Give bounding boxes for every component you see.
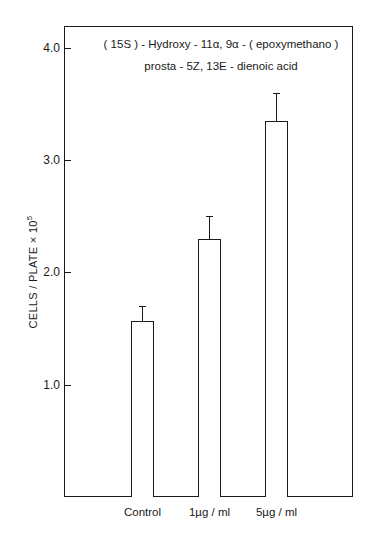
y-tick-label: 1.0	[20, 379, 60, 391]
y-tick	[64, 385, 71, 386]
y-tick	[64, 272, 71, 273]
y-tick	[64, 48, 71, 49]
error-bar	[142, 306, 143, 321]
error-bar-cap	[273, 93, 280, 94]
error-bar	[209, 216, 210, 238]
bar	[198, 239, 221, 497]
y-tick	[64, 160, 71, 161]
bar	[265, 121, 288, 497]
y-tick-label: 3.0	[20, 154, 60, 166]
chart-title-line-1: ( 15S ) - Hydroxy - 11α, 9α - ( epoxymet…	[96, 37, 346, 51]
x-tick-label: 1µg / ml	[189, 506, 230, 518]
error-bar-cap	[206, 216, 213, 217]
error-bar	[276, 93, 277, 121]
chart-title-line-2: prosta - 5Z, 13E - dienoic acid	[96, 59, 346, 73]
error-bar-cap	[139, 306, 146, 307]
y-tick-label: 4.0	[20, 42, 60, 54]
y-axis-title: CELLS / PLATE × 105	[25, 216, 39, 329]
x-tick-label: 5µg / ml	[256, 506, 297, 518]
x-tick-label: Control	[124, 506, 161, 518]
bar	[131, 321, 154, 497]
